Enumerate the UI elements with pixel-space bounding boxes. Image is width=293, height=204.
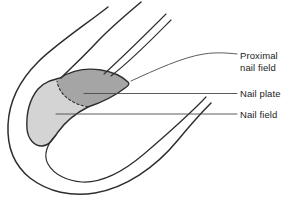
- nail-plate-label: Nail plate: [240, 88, 281, 99]
- nail-diagram-svg: Proximal nail field Nail plate Nail fiel…: [0, 0, 293, 204]
- dorsal-skin-line-path: [61, 2, 141, 78]
- shaded-regions: [27, 69, 129, 146]
- proximal-nail-field-leader-line: [131, 53, 237, 81]
- proximal-nail-field-label-line1: Proximal: [240, 50, 278, 61]
- proximal-nail-field-label-line2: nail field: [240, 62, 276, 73]
- proximal-fold-line-1-path: [104, 14, 166, 74]
- nail-field-label: Nail field: [240, 109, 277, 120]
- labels: Proximal nail field Nail plate Nail fiel…: [240, 50, 281, 120]
- nail-anatomy-diagram: Proximal nail field Nail plate Nail fiel…: [0, 0, 293, 204]
